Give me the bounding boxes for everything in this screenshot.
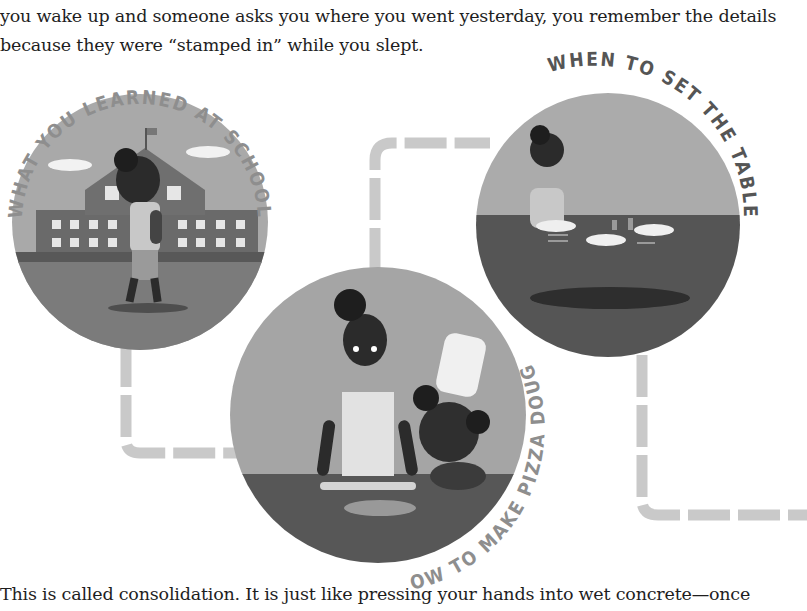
apron	[342, 392, 394, 476]
connector-table-to-next	[642, 355, 807, 515]
outro-paragraph: This is called consolidation. It is just…	[0, 580, 750, 609]
rolling-pin	[320, 482, 416, 490]
connector-school-to-pizza	[126, 345, 240, 453]
table-scene	[470, 90, 750, 365]
memory-illustration: WHAT YOU LEARNED AT SCHOOL WHEN TO SET T…	[0, 0, 807, 611]
cloud	[186, 146, 230, 158]
cloud	[48, 159, 92, 171]
dough	[344, 500, 416, 516]
connector-pizza-to-table	[375, 143, 490, 270]
